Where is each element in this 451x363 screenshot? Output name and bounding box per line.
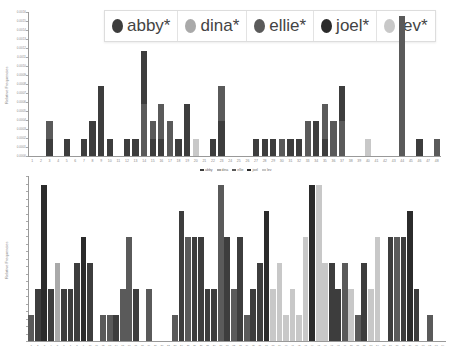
- bar[interactable]: [185, 237, 191, 341]
- bar[interactable]: [81, 237, 87, 341]
- bar[interactable]: [172, 315, 178, 341]
- x-axis: [28, 341, 446, 342]
- bottom-bar-chart: Relative Frequencies12345678910111213141…: [0, 0, 451, 363]
- bar[interactable]: [41, 185, 47, 341]
- bar[interactable]: [368, 289, 374, 341]
- bar[interactable]: [146, 289, 152, 341]
- bar[interactable]: [375, 237, 381, 341]
- bar[interactable]: [355, 315, 361, 341]
- bar[interactable]: [250, 289, 256, 341]
- bar[interactable]: [322, 263, 328, 341]
- bar[interactable]: [290, 289, 296, 341]
- bar[interactable]: [427, 315, 433, 341]
- bar[interactable]: [87, 263, 93, 341]
- bar[interactable]: [309, 185, 315, 341]
- bar[interactable]: [74, 263, 80, 341]
- bar[interactable]: [179, 211, 185, 341]
- bar[interactable]: [120, 289, 126, 341]
- bar[interactable]: [100, 315, 106, 341]
- bar[interactable]: [329, 263, 335, 341]
- bar[interactable]: [237, 237, 243, 341]
- bar[interactable]: [133, 289, 139, 341]
- bar[interactable]: [407, 211, 413, 341]
- bar[interactable]: [257, 263, 263, 341]
- bar[interactable]: [55, 263, 61, 341]
- bar[interactable]: [270, 289, 276, 341]
- bar[interactable]: [401, 237, 407, 341]
- bar[interactable]: [335, 289, 341, 341]
- bar[interactable]: [107, 315, 113, 341]
- bar[interactable]: [48, 289, 54, 341]
- bar[interactable]: [231, 289, 237, 341]
- bar[interactable]: [296, 315, 302, 341]
- bar[interactable]: [113, 315, 119, 341]
- bar[interactable]: [394, 237, 400, 341]
- bar[interactable]: [388, 237, 394, 341]
- bar[interactable]: [28, 315, 34, 341]
- bar[interactable]: [303, 237, 309, 341]
- bar[interactable]: [192, 237, 198, 341]
- x-tick-label: 64: [439, 344, 446, 347]
- bar[interactable]: [264, 211, 270, 341]
- bar[interactable]: [342, 263, 348, 341]
- bar[interactable]: [205, 289, 211, 341]
- bar[interactable]: [35, 289, 41, 341]
- bar[interactable]: [361, 263, 367, 341]
- bar[interactable]: [283, 315, 289, 341]
- bar[interactable]: [211, 289, 217, 341]
- bar[interactable]: [126, 237, 132, 341]
- bar[interactable]: [244, 315, 250, 341]
- bar[interactable]: [277, 263, 283, 341]
- bar[interactable]: [224, 237, 230, 341]
- bar[interactable]: [61, 289, 67, 341]
- y-axis-label: Relative Frequencies: [4, 241, 9, 279]
- bar[interactable]: [414, 289, 420, 341]
- bar[interactable]: [198, 237, 204, 341]
- bar[interactable]: [348, 289, 354, 341]
- bar[interactable]: [68, 289, 74, 341]
- bar[interactable]: [316, 185, 322, 341]
- bar[interactable]: [218, 185, 224, 341]
